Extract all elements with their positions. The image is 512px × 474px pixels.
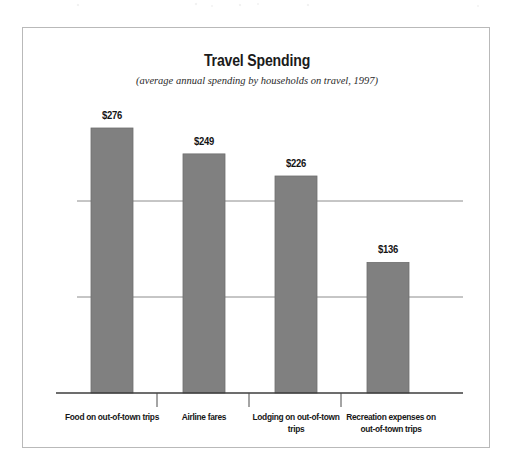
bar-food-on-out-of-town-trips[interactable] xyxy=(91,128,133,393)
plot-area: $276 $249 $226 $136 Food on out-of-town … xyxy=(23,28,491,449)
category-label-bar-2-line1: Lodging on out-of-town xyxy=(252,411,339,422)
bar-group xyxy=(91,128,409,393)
category-label-bar-0: Food on out-of-town trips xyxy=(63,411,162,423)
category-label-bar-1-line1: Airline fares xyxy=(182,411,226,422)
category-label-bar-3-line1: Recreation expenses on xyxy=(346,411,435,422)
bar-recreation-expenses-on-out-of-town-trips[interactable] xyxy=(367,262,409,393)
category-label-bar-3: Recreation expenses on out-of-town trips xyxy=(339,411,443,435)
category-label-bar-3-line2: out-of-town trips xyxy=(360,423,421,434)
scan-noise-artifact xyxy=(0,0,512,14)
value-label-bar-1: $249 xyxy=(170,135,239,147)
bar-chart-canvas xyxy=(23,28,491,449)
category-label-bar-2: Lodging on out-of-town trips xyxy=(247,411,346,435)
axis-tick-group xyxy=(157,393,341,407)
bar-lodging-on-out-of-town-trips[interactable] xyxy=(275,176,317,393)
category-label-bar-2-line2: trips xyxy=(288,423,305,434)
category-label-bar-1: Airline fares xyxy=(155,411,254,423)
category-label-bar-0-line1: Food on out-of-town trips xyxy=(65,411,159,422)
scanned-page: Travel Spending (average annual spending… xyxy=(0,0,512,474)
bar-airline-fares[interactable] xyxy=(183,154,225,393)
value-label-bar-2: $226 xyxy=(262,157,331,169)
figure-frame: Travel Spending (average annual spending… xyxy=(22,27,490,448)
value-label-bar-0: $276 xyxy=(78,109,147,121)
value-label-bar-3: $136 xyxy=(354,243,423,255)
